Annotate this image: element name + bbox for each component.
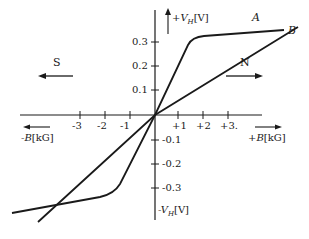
x-positive-label: +B[kG]: [248, 133, 286, 143]
y-tick-0.2: 0.2: [132, 61, 148, 71]
north-arrow-icon: [226, 73, 263, 79]
x-tick-neg3: -3: [72, 121, 82, 131]
y-positive-label: +VH[V]: [172, 13, 209, 26]
x-tick-neg2: -2: [97, 121, 107, 131]
y-tick-neg0.1: -0.1: [162, 135, 181, 145]
y-negative-label: -VH[V]: [158, 205, 189, 218]
y-tick-neg0.2: -0.2: [162, 159, 181, 169]
x-tick-neg1: -1: [120, 121, 130, 131]
y-tick-neg0.3: -0.3: [162, 183, 181, 193]
vh-up-arrow-icon: [165, 8, 171, 34]
y-tick-0.3: 0.3: [132, 37, 148, 47]
south-pole-label: S: [53, 57, 61, 68]
x-tick-pos1: +1: [172, 121, 187, 131]
north-pole-label: N: [240, 57, 250, 68]
pos-b-arrow-icon: [255, 125, 282, 130]
curve-a-label: A: [252, 12, 260, 23]
chart-canvas: [0, 0, 309, 239]
neg-b-arrow-icon: [23, 125, 50, 130]
x-tick-pos3: +3.: [220, 121, 238, 131]
y-tick-0.1: 0.1: [132, 85, 148, 95]
curve-b-label: B: [288, 25, 296, 36]
x-negative-label: -B[kG]: [21, 133, 54, 143]
south-arrow-icon: [38, 73, 73, 79]
x-tick-pos2: +2: [196, 121, 211, 131]
